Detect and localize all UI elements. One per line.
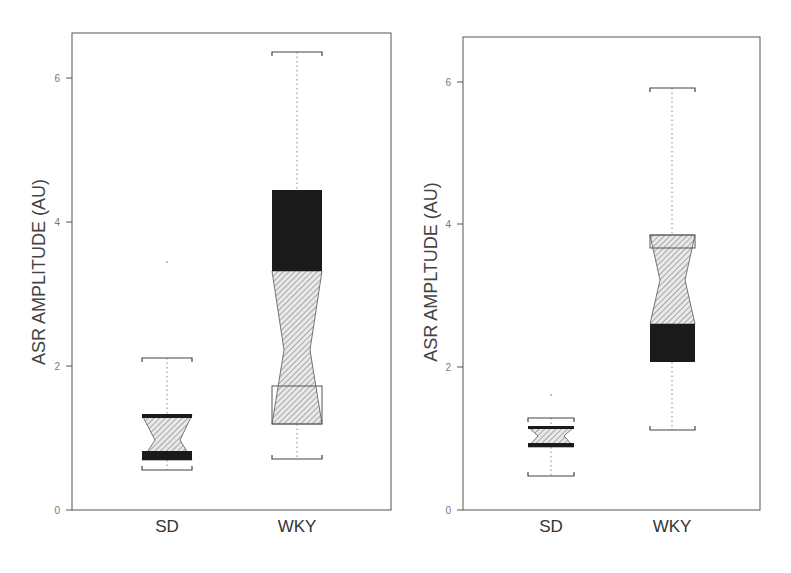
left-x-label-wky: WKY xyxy=(278,517,317,536)
left-sd-outlier xyxy=(166,261,168,263)
left-panel: 0 2 4 6 ASR AMPLITUDE (AU) SD xyxy=(29,33,391,536)
right-y-axis: 0 2 4 6 ASR AMPLTUDE (AU) xyxy=(421,77,463,516)
left-tick-0: 0 xyxy=(54,505,60,516)
left-sd-box xyxy=(142,261,192,470)
right-sd-box xyxy=(528,394,574,476)
figure: 0 2 4 6 ASR AMPLITUDE (AU) SD xyxy=(0,0,791,573)
left-tick-2: 2 xyxy=(54,361,60,372)
left-y-axis: 0 2 4 6 ASR AMPLITUDE (AU) xyxy=(29,73,72,516)
left-plot-frame xyxy=(72,33,391,510)
right-sd-outlier xyxy=(550,394,552,396)
right-tick-0: 0 xyxy=(445,505,451,516)
right-plot-frame xyxy=(463,37,760,510)
right-panel: 0 2 4 6 ASR AMPLTUDE (AU) SD xyxy=(421,37,760,536)
right-tick-6: 6 xyxy=(445,77,451,88)
right-x-label-sd: SD xyxy=(539,517,563,536)
left-tick-4: 4 xyxy=(54,217,60,228)
right-wky-box xyxy=(650,88,695,430)
right-x-label-wky: WKY xyxy=(653,517,692,536)
right-tick-2: 2 xyxy=(445,362,451,373)
left-wky-box xyxy=(272,52,322,459)
left-y-axis-title: ASR AMPLITUDE (AU) xyxy=(29,179,49,365)
left-x-label-sd: SD xyxy=(155,517,179,536)
right-tick-4: 4 xyxy=(445,219,451,230)
left-tick-6: 6 xyxy=(54,73,60,84)
right-y-axis-title: ASR AMPLTUDE (AU) xyxy=(421,182,441,362)
